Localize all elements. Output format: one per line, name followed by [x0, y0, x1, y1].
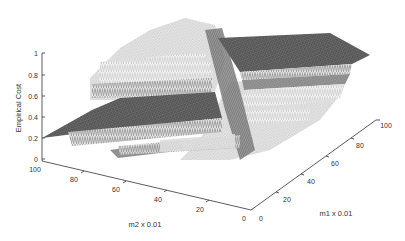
m2-tick-20: 20 [196, 206, 204, 213]
m2-tick-100: 100 [29, 166, 41, 173]
z-tick-0.4: 0.4 [28, 114, 38, 121]
m1-axis-label: m1 x 0.01 [320, 209, 353, 218]
m1-tick-20: 20 [283, 196, 291, 203]
m2-axis: 100 80 60 40 20 0 m2 x 0.01 [29, 161, 251, 229]
surface-plot: 1 0.8 0.6 0.4 0.2 0 Empirical Cost 100 8… [0, 0, 405, 241]
low-plateau [42, 92, 240, 158]
m2-tick-40: 40 [154, 196, 162, 203]
z-tick-0: 0 [34, 156, 38, 163]
m2-axis-label: m2 x 0.01 [129, 220, 162, 229]
z-tick-0.6: 0.6 [28, 93, 38, 100]
z-tick-0.8: 0.8 [28, 72, 38, 79]
m2-tick-60: 60 [112, 186, 120, 193]
z-tick-0.2: 0.2 [28, 135, 38, 142]
z-axis: 1 0.8 0.6 0.4 0.2 0 Empirical Cost [14, 50, 45, 163]
m2-tick-80: 80 [70, 176, 78, 183]
light-terraces [90, 18, 225, 100]
m1-tick-40: 40 [307, 178, 315, 185]
m2-tick-0: 0 [242, 215, 246, 222]
m1-tick-100: 100 [380, 122, 392, 129]
m1-tick-80: 80 [356, 142, 364, 149]
z-tick-1: 1 [34, 50, 38, 57]
m1-tick-0: 0 [259, 215, 263, 222]
m1-tick-60: 60 [331, 160, 339, 167]
z-axis-label: Empirical Cost [14, 83, 23, 132]
